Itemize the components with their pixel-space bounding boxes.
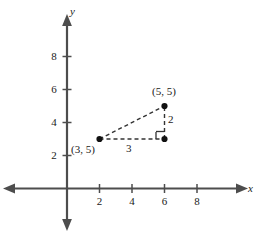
point-label-lower-left: (3, 5) [71,144,95,155]
y-axis-label: y [70,6,75,17]
y-tick-label-2: 2 [48,150,60,161]
point-lower-left [96,136,102,142]
coordinate-plane-figure: y x 2 4 6 8 2 4 6 8 (3, 5) (5, 5) 3 2 [0,0,260,243]
vertical-leg-length-label: 2 [168,114,174,125]
x-axis-right-arrowhead [236,184,248,194]
x-axis-left-arrowhead [3,184,15,194]
x-tick-label-4: 4 [126,196,138,207]
triangle-hypotenuse [100,106,165,139]
point-upper-right [161,103,167,109]
x-axis-label: x [248,183,253,194]
point-label-upper-right: (5, 5) [152,86,176,97]
x-tick-label-2: 2 [94,196,106,207]
x-tick-label-8: 8 [191,196,203,207]
point-corner [161,136,167,142]
x-tick-label-6: 6 [159,196,171,207]
horizontal-leg-length-label: 3 [126,143,132,154]
y-tick-label-4: 4 [48,117,60,128]
y-axis-bottom-arrowhead [62,219,72,231]
y-tick-label-8: 8 [48,51,60,62]
y-tick-label-6: 6 [48,84,60,95]
